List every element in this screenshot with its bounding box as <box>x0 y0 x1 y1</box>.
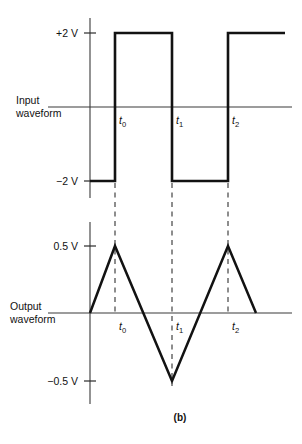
output-upper-value-label: 0.5 V <box>53 240 78 252</box>
figure-caption: (b) <box>174 412 187 423</box>
output-side-label-line2: waveform <box>9 313 56 325</box>
input-upper-value-label: +2 V <box>56 27 78 39</box>
input-time-label-t1: t1 <box>176 114 183 129</box>
input-side-label-line1: Input <box>16 94 39 106</box>
output-panel: 0.5 V −0.5 V Output waveform t0 t1 t2 <box>9 222 292 404</box>
waveform-figure: +2 V −2 V Input waveform t0 t1 t2 <box>0 0 302 444</box>
output-time-label-t1: t1 <box>176 320 183 335</box>
output-time-label-t0: t0 <box>119 320 126 335</box>
input-lower-value-label: −2 V <box>56 175 78 187</box>
output-time-label-t2: t2 <box>232 320 239 335</box>
output-side-label-line1: Output <box>10 300 42 312</box>
figure-container: +2 V −2 V Input waveform t0 t1 t2 <box>0 0 302 444</box>
input-panel: +2 V −2 V Input waveform t0 t1 t2 <box>15 18 292 198</box>
input-time-label-t0: t0 <box>119 114 126 129</box>
output-lower-value-label: −0.5 V <box>47 375 78 387</box>
input-time-label-t2: t2 <box>232 114 239 129</box>
input-side-label-line2: waveform <box>15 107 62 119</box>
